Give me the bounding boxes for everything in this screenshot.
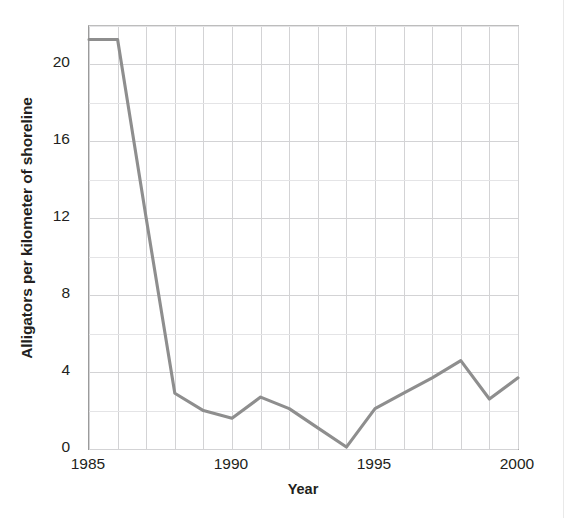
gridline-vertical [518, 26, 519, 449]
y-tick-label: 12 [10, 207, 70, 225]
x-tick-label: 1995 [339, 455, 409, 473]
x-tick-label: 2000 [482, 455, 552, 473]
x-axis-title: Year [88, 481, 518, 497]
data-series-line [89, 26, 518, 449]
plot-area [88, 25, 519, 450]
y-tick-label: 0 [10, 438, 70, 456]
x-tick-label: 1985 [53, 455, 123, 473]
gridline-horizontal [89, 449, 518, 450]
alligator-population-line-chart: Alligators per kilometer of shoreline 04… [0, 0, 564, 518]
x-tick-label: 1990 [196, 455, 266, 473]
y-tick-label: 4 [10, 361, 70, 379]
y-tick-label: 8 [10, 284, 70, 302]
y-tick-label: 20 [10, 53, 70, 71]
y-axis-tick-labels: 048121620 [0, 0, 78, 518]
y-tick-label: 16 [10, 130, 70, 148]
series-polyline [89, 39, 518, 447]
x-axis-tick-labels: 1985199019952000 [0, 455, 564, 481]
